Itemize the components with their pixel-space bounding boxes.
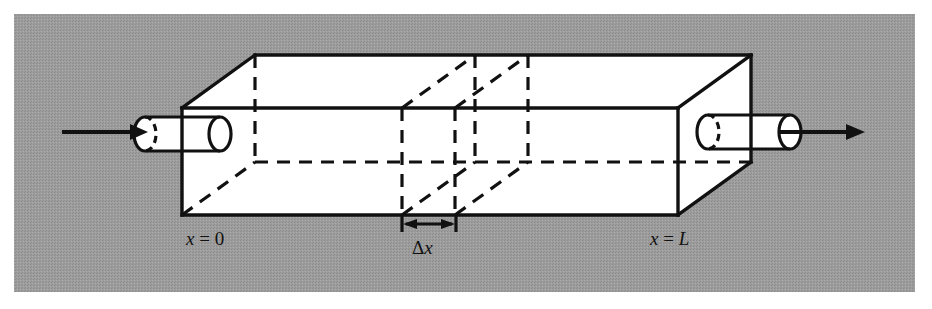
label-delta-x-symbol: Δ: [412, 237, 424, 258]
label-delta-x-var: x: [423, 237, 433, 258]
rod-control-volume-diagram: x = 0 x = L Δx: [0, 0, 932, 309]
label-x-equals-L: x = L: [649, 228, 689, 249]
label-x-equals-L-eq: =: [658, 228, 678, 249]
label-x-equals-0-eq: =: [194, 228, 214, 249]
label-delta-x: Δx: [412, 237, 433, 258]
label-x-equals-0-value: 0: [215, 228, 225, 249]
label-x-equals-0: x = 0: [185, 228, 224, 249]
label-x-equals-L-value: L: [678, 228, 690, 249]
figure-container: x = 0 x = L Δx: [0, 0, 932, 309]
